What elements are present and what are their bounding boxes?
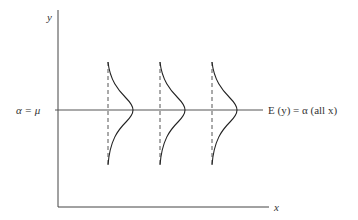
y-axis-label: y [46, 11, 52, 23]
distribution-curve-2 [160, 62, 185, 165]
intercept-label: α = μ [16, 104, 41, 116]
normal-curve [212, 62, 237, 165]
regression-diagram: y x α = μ E (y) = α (all x) [0, 0, 358, 220]
x-axis-label: x [273, 201, 279, 213]
distribution-curve-3 [212, 62, 237, 165]
normal-curve [108, 62, 133, 165]
mean-line-label: E (y) = α (all x) [268, 104, 337, 117]
distribution-curve-1 [108, 62, 133, 165]
normal-curve [160, 62, 185, 165]
